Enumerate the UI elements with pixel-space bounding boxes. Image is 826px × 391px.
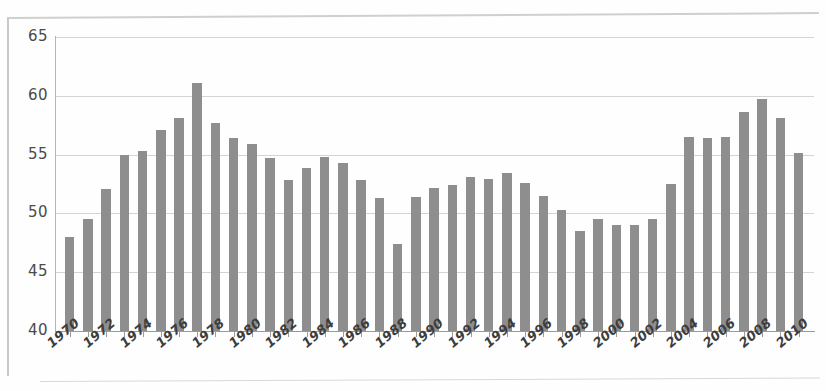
bar	[120, 155, 129, 331]
bar	[356, 180, 365, 331]
bar	[794, 153, 803, 331]
gridline	[56, 37, 814, 38]
y-tick-label: 45	[8, 262, 48, 280]
bar	[648, 219, 657, 331]
bar	[211, 123, 220, 331]
bar	[703, 138, 712, 331]
gridline	[56, 155, 814, 156]
bar	[739, 112, 748, 331]
bar	[721, 137, 730, 331]
bar	[466, 177, 475, 331]
y-tick-label: 65	[8, 27, 48, 45]
bar	[448, 185, 457, 331]
bar	[229, 138, 238, 331]
y-tick-label: 50	[8, 203, 48, 221]
bar	[375, 198, 384, 331]
plot-area	[56, 37, 814, 331]
gridline	[56, 96, 814, 97]
bar	[338, 163, 347, 331]
bar	[83, 219, 92, 331]
bar	[320, 157, 329, 331]
bar	[302, 168, 311, 331]
bar	[557, 210, 566, 331]
bar	[502, 173, 511, 331]
bar	[138, 151, 147, 331]
bar	[776, 118, 785, 331]
bar	[593, 219, 602, 331]
bar	[247, 144, 256, 331]
bar	[520, 183, 529, 331]
bar	[684, 137, 693, 331]
y-tick-label: 55	[8, 145, 48, 163]
y-axis-tick-labels: 404550556065	[0, 0, 48, 391]
bar	[757, 99, 766, 331]
bar	[284, 180, 293, 331]
bar	[411, 197, 420, 331]
bar	[192, 83, 201, 331]
bar	[484, 179, 493, 331]
bar	[101, 189, 110, 331]
y-tick-label: 40	[8, 321, 48, 339]
bar	[174, 118, 183, 331]
bar-chart: 404550556065 197019721974197619781980198…	[0, 0, 826, 391]
bar	[630, 225, 639, 331]
bar	[156, 130, 165, 331]
bar	[666, 184, 675, 331]
y-tick-label: 60	[8, 86, 48, 104]
bar	[265, 158, 274, 331]
bar	[539, 196, 548, 331]
bar	[429, 188, 438, 331]
